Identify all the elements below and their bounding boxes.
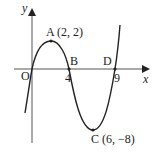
cubic-curve [25,25,120,130]
point-d-label: D [103,54,112,68]
origin-label: O [21,69,30,83]
point-a-dot [49,39,52,42]
x-tick-4: 4 [65,71,71,85]
x-tick-9: 9 [114,71,120,85]
point-b-label: B [70,54,78,68]
y-axis-label: y [21,1,28,15]
function-graph: y x O A (2, 2) B C (6, −8) D 4 9 [0,0,160,159]
point-a-label: A (2, 2) [46,25,83,39]
x-axis-label: x [142,72,149,86]
point-c-label: C (6, −8) [91,132,135,146]
